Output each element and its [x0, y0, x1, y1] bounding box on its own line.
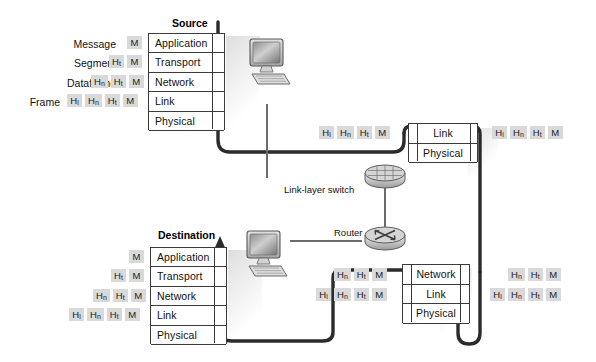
diagram-canvas: Source Application Transport Network Lin…	[0, 0, 596, 362]
router-pdu-in-top: Hn Ht M	[334, 268, 387, 281]
chip-m: M	[546, 268, 561, 281]
chip-hl: Hl	[69, 308, 84, 321]
chip-hn: Hn	[508, 268, 525, 281]
chip-m: M	[129, 75, 144, 88]
chip-hl: Hl	[67, 94, 82, 107]
chip-m: M	[546, 288, 561, 301]
destination-pdu-segment: Ht M	[111, 269, 144, 282]
chip-m: M	[372, 268, 387, 281]
chip-ht: Ht	[111, 75, 126, 88]
source-row-label-segment: Segment	[20, 58, 116, 69]
switch-label: Link-layer switch	[284, 185, 354, 195]
chip-ht: Ht	[109, 55, 124, 68]
chip-m: M	[131, 289, 146, 302]
chip-ht: Ht	[107, 308, 122, 321]
chip-ht: Ht	[528, 288, 543, 301]
router-stack-gutter-left	[411, 265, 412, 322]
chip-hn: Hn	[85, 94, 102, 107]
source-computer-icon	[243, 36, 297, 106]
chip-hn: Hn	[510, 126, 527, 139]
chip-m: M	[375, 126, 390, 139]
destination-stack-gutter	[214, 248, 215, 343]
source-pdu-message: M	[127, 36, 142, 49]
source-pdu-segment: Ht M	[109, 55, 142, 68]
chip-ht: Ht	[113, 289, 128, 302]
source-row-label-message: Message	[20, 39, 116, 50]
chip-hn: Hn	[93, 289, 110, 302]
router-pdu-out-top: Hn Ht M	[508, 268, 561, 281]
chip-hl: Hl	[492, 126, 507, 139]
destination-computer-icon	[240, 228, 294, 298]
switch-stack-gutter-right	[470, 124, 471, 161]
router-stack-gutter-right	[460, 265, 461, 322]
chip-hl: Hl	[319, 126, 334, 139]
chip-m: M	[123, 94, 138, 107]
destination-title: Destination	[158, 230, 215, 241]
chip-hn: Hn	[334, 288, 351, 301]
chip-ht: Ht	[111, 269, 126, 282]
chip-hn: Hn	[87, 308, 104, 321]
destination-pdu-frame: Hl Hn Ht M	[69, 308, 140, 321]
chip-hn: Hn	[508, 288, 525, 301]
chip-ht: Ht	[354, 288, 369, 301]
chip-hl: Hl	[316, 288, 331, 301]
source-protocol-stack: Application Transport Network Link Physi…	[148, 33, 225, 130]
switch-layer-physical[interactable]: Physical	[409, 144, 477, 164]
chip-m: M	[548, 126, 563, 139]
router-protocol-stack: Network Link Physical	[402, 264, 470, 323]
chip-ht: Ht	[528, 268, 543, 281]
chip-ht: Ht	[530, 126, 545, 139]
link-source-computer-to-switch	[266, 104, 268, 178]
chip-m: M	[372, 288, 387, 301]
source-row-label-frame: Frame	[2, 97, 60, 108]
switch-layer-link[interactable]: Link	[409, 124, 477, 144]
switch-pdu-in: Hl Hn Ht M	[319, 126, 390, 139]
chip-hn: Hn	[91, 75, 108, 88]
destination-pdu-dataframe: Hn Ht M	[93, 289, 146, 302]
chip-ht: Ht	[354, 268, 369, 281]
switch-stack-gutter-left	[417, 124, 418, 161]
switch-pdu-out: Hl Hn Ht M	[492, 126, 563, 139]
source-stack-gutter	[212, 34, 213, 129]
chip-m: M	[127, 36, 142, 49]
router-label: Router	[334, 228, 363, 238]
chip-m: M	[129, 250, 144, 263]
source-title: Source	[172, 18, 208, 29]
chip-m: M	[127, 55, 142, 68]
destination-protocol-stack: Application Transport Network Link Physi…	[150, 247, 227, 344]
destination-pdu-message: M	[129, 250, 144, 263]
chip-ht: Ht	[105, 94, 120, 107]
chip-hn: Hn	[337, 126, 354, 139]
router-icon[interactable]	[364, 226, 406, 252]
chip-ht: Ht	[357, 126, 372, 139]
chip-hl: Hl	[490, 288, 505, 301]
source-pdu-dataframe: Hn Ht M	[91, 75, 144, 88]
switch-protocol-stack: Link Physical	[408, 123, 478, 162]
link-layer-switch-icon[interactable]	[364, 164, 406, 190]
router-pdu-in-bottom: Hl Hn Ht M	[316, 288, 387, 301]
chip-m: M	[129, 269, 144, 282]
source-pdu-frame: Hl Hn Ht M	[67, 94, 138, 107]
link-router-to-destination-computer	[290, 240, 362, 242]
chip-hn: Hn	[334, 268, 351, 281]
router-pdu-out-bottom: Hl Hn Ht M	[490, 288, 561, 301]
chip-m: M	[125, 308, 140, 321]
